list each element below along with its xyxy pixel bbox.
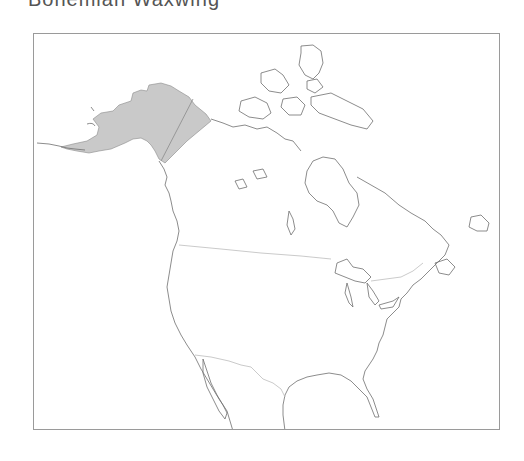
gulf-coastline xyxy=(283,373,361,430)
range-area-alaska xyxy=(61,83,211,163)
range-map xyxy=(33,33,500,430)
hudson-bay xyxy=(305,157,359,227)
north-america-map-svg xyxy=(34,34,500,430)
atlantic-coastline xyxy=(361,285,413,417)
map-title: Bohemian Waxwing xyxy=(28,0,220,11)
pacific-coastline xyxy=(159,161,233,430)
great-lakes xyxy=(335,259,371,283)
canada-us-border xyxy=(179,245,423,281)
